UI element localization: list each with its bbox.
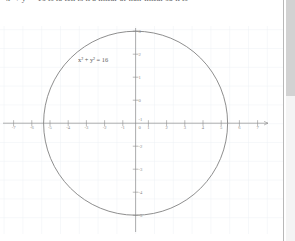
question-text-strip: x² + y² = 16 is to tell is it a linear o…: [0, 0, 283, 11]
xtick-label: -3: [84, 125, 88, 130]
xtick-label: 7: [256, 125, 258, 130]
page-right-border: [283, 0, 284, 241]
xtick-label: -6: [30, 125, 34, 130]
xtick-label: 2: [165, 125, 167, 130]
xtick-label: -5: [48, 125, 52, 130]
graph-paper: x² + y² = 16 -7 -6 -5 -4 -3 -2 -1 0 1 2 …: [0, 26, 283, 234]
xtick-label: 3: [184, 125, 186, 130]
ytick-label: -1: [139, 117, 143, 122]
ytick-label: 2: [139, 52, 141, 57]
circle-curve: [0, 26, 283, 234]
xtick-label: 1: [147, 125, 149, 130]
xtick-label: 5: [220, 125, 222, 130]
document-page: x² + y² = 16 -7 -6 -5 -4 -3 -2 -1 0 1 2 …: [0, 11, 283, 238]
ytick-label: -3: [139, 167, 143, 172]
xtick-label: -4: [66, 125, 70, 130]
graph-container: x² + y² = 16 -7 -6 -5 -4 -3 -2 -1 0 1 2 …: [0, 26, 283, 234]
ytick-label: 1: [139, 75, 141, 80]
xtick-label: -7: [12, 125, 16, 130]
xtick-label: 4: [202, 125, 204, 130]
ytick-label: -2: [139, 144, 143, 149]
xtick-label: -2: [103, 125, 107, 130]
xtick-label: -1: [121, 125, 125, 130]
question-text: x² + y² = 16 is to tell is it a linear o…: [6, 0, 188, 3]
xtick-label: 6: [238, 125, 240, 130]
vertical-scrollbar-thumb[interactable]: [286, 0, 295, 96]
ytick-label: 3: [139, 29, 141, 34]
ytick-label: -4: [139, 190, 143, 195]
xtick-label: 0: [138, 125, 140, 130]
ytick-label: -5: [139, 213, 143, 218]
equation-annotation: x² + y² = 16: [78, 56, 108, 63]
ytick-label: 0: [139, 98, 141, 103]
